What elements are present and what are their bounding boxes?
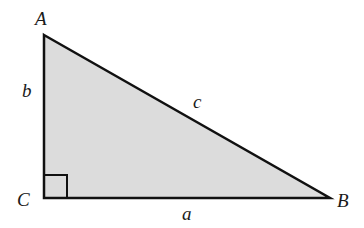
vertex-label-c: C bbox=[17, 189, 30, 210]
vertex-label-a: A bbox=[33, 8, 47, 29]
vertex-label-b: B bbox=[337, 190, 349, 211]
side-label-b: b bbox=[22, 80, 32, 101]
triangle-fill bbox=[44, 35, 330, 198]
triangle-diagram: A C B b c a bbox=[0, 0, 364, 228]
side-label-a: a bbox=[182, 203, 192, 224]
side-label-c: c bbox=[193, 91, 202, 112]
